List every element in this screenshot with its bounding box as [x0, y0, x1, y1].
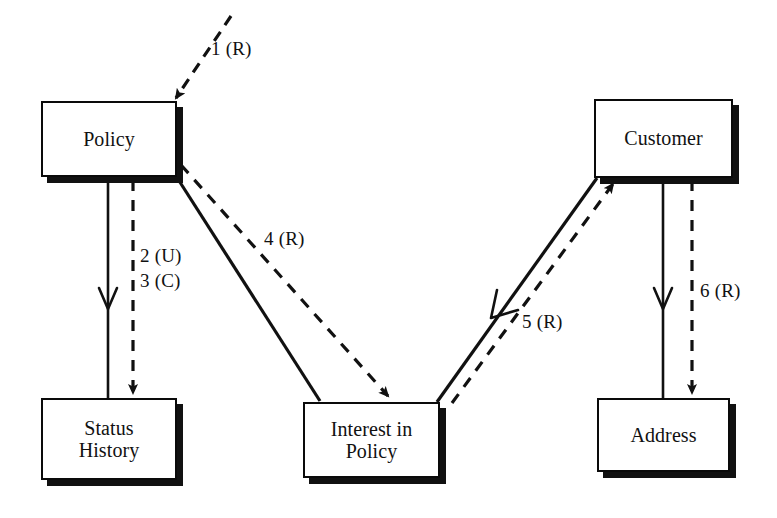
diagram-canvas: Policy Customer Status History Interest …	[0, 0, 777, 518]
edge-label-2-u: 2 (U)	[140, 245, 182, 267]
edge-4-r	[181, 165, 388, 396]
edge-label-1-r: 1 (R)	[211, 38, 252, 60]
node-interest-in-policy-label: Interest in Policy	[331, 418, 413, 463]
edge-label-6-r: 6 (R)	[700, 280, 741, 302]
edge-label-3-c: 3 (C)	[140, 270, 181, 292]
node-customer-label: Customer	[624, 127, 703, 149]
node-status-history-label: Status History	[79, 417, 140, 462]
edge-4-r-line	[181, 165, 388, 396]
node-address-label: Address	[630, 424, 696, 446]
edge-5-r	[452, 184, 613, 403]
edge-customer-interest-solid-line	[437, 178, 597, 402]
edge-2-u	[99, 178, 117, 398]
edge-label-4-r: 4 (R)	[264, 228, 305, 250]
node-interest-in-policy[interactable]: Interest in Policy	[303, 402, 440, 478]
node-customer[interactable]: Customer	[594, 99, 733, 178]
node-policy-label: Policy	[83, 128, 135, 150]
edge-policy-interest-solid-line	[176, 176, 320, 401]
edge-customer-address-solid	[654, 178, 672, 398]
edge-label-5-r: 5 (R)	[522, 311, 563, 333]
node-address[interactable]: Address	[597, 398, 730, 472]
edge-customer-interest-solid	[437, 178, 597, 402]
node-status-history[interactable]: Status History	[41, 398, 177, 480]
edge-5-r-line	[452, 184, 613, 403]
node-policy[interactable]: Policy	[41, 101, 177, 177]
edge-policy-interest-solid	[176, 176, 320, 401]
